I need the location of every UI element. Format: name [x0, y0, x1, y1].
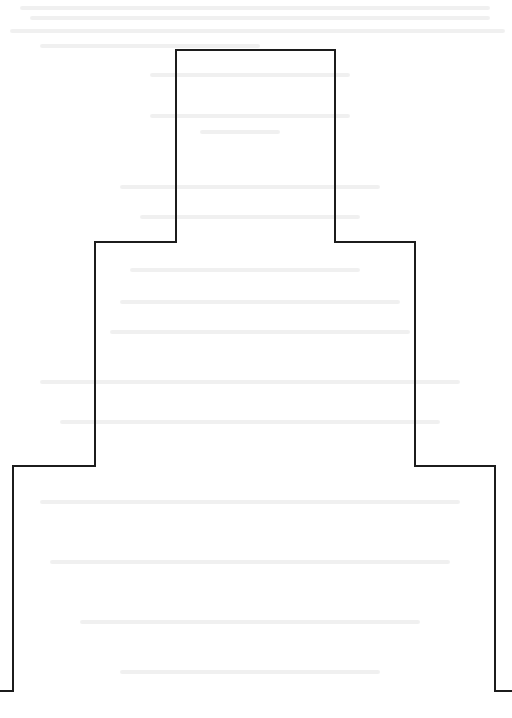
scanned-page [0, 0, 512, 718]
stepped-outline [0, 50, 512, 691]
stepped-outline-figure [0, 0, 512, 718]
